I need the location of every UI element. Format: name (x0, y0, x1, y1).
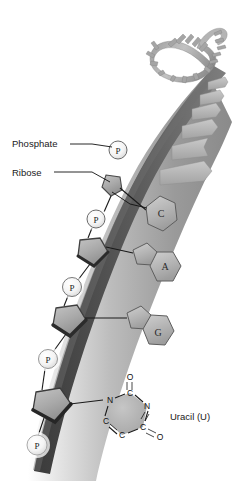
base-label-c: C (158, 208, 165, 219)
phosphate-marker: P (60, 275, 84, 299)
label-uracil: Uracil (U) (170, 411, 210, 422)
uracil-atom-c5: C (119, 430, 125, 440)
label-phosphate: Phosphate (12, 138, 57, 149)
leader-ribose (54, 172, 110, 182)
ribose-ring (102, 175, 122, 196)
bond-ribose-to-phosphate (104, 196, 111, 212)
uracil-atom-o2: O (127, 372, 134, 382)
phosphate-label: P (45, 355, 50, 365)
bond-phosphate-to-ribose (42, 369, 45, 390)
leader-phosphate (70, 144, 112, 147)
rna-structure-figure: C A G (0, 0, 236, 481)
label-ribose: Ribose (12, 167, 42, 178)
phosphate-marker: P (85, 208, 108, 231)
phosphate-marker: P (107, 139, 130, 162)
phosphate-marker: P (24, 432, 50, 458)
rna-diagram-canvas: C A G (0, 0, 236, 481)
phosphate-label: P (34, 441, 39, 451)
base-label-a: A (161, 261, 169, 272)
uracil-atom-c4: C (140, 422, 146, 432)
uracil-atom-c6: C (103, 416, 109, 426)
uracil-atom-n1: N (107, 395, 113, 405)
uracil-atom-n3: N (144, 401, 150, 411)
base-label-g: G (154, 327, 161, 338)
phosphate-label: P (93, 215, 98, 225)
phosphate-label: P (69, 283, 74, 293)
phosphate-label: P (115, 146, 120, 156)
uracil-carbonyl-right (146, 429, 156, 437)
phosphate-marker: P (36, 347, 61, 372)
uracil-atom-c2: C (127, 388, 133, 398)
uracil-atom-o4: O (157, 432, 164, 442)
